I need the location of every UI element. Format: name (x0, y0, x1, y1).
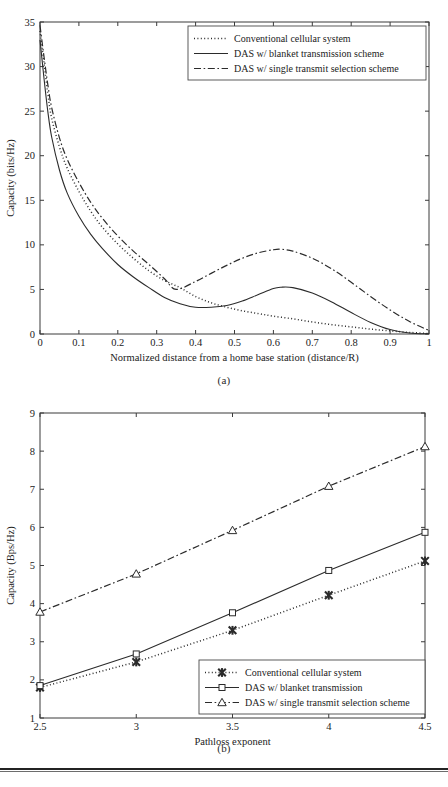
figure-a: 00.10.20.30.40.50.60.70.80.9105101520253… (0, 0, 448, 395)
figure-b-caption: (b) (0, 742, 448, 754)
y-tick-label: 20 (25, 150, 36, 161)
legend-marker-1 (219, 685, 225, 691)
series-2-marker (325, 482, 333, 489)
legend-label-1: DAS w/ blanket transmission scheme (234, 48, 385, 59)
figure-a-caption: (a) (0, 374, 448, 386)
series-0-marker (229, 626, 237, 635)
x-tick-label: 0.2 (111, 337, 124, 348)
series-0-marker (325, 591, 333, 600)
series-2-marker (36, 608, 44, 615)
y-tick-label: 15 (25, 195, 36, 206)
y-tick-label: 0 (30, 329, 35, 340)
y-axis-title: Capacity (bits/Hz) (5, 139, 17, 217)
x-tick-label: 0.1 (72, 337, 85, 348)
series-1-marker (230, 610, 236, 616)
x-tick-label: 0.7 (306, 337, 319, 348)
y-tick-label: 6 (30, 522, 35, 533)
series-1-marker (133, 651, 139, 657)
series-0-marker (132, 658, 140, 667)
y-tick-label: 5 (30, 284, 35, 295)
x-tick-label: 0.8 (345, 337, 358, 348)
series-1-marker (422, 529, 428, 535)
x-tick-label: 0.6 (267, 337, 280, 348)
series-0-marker (421, 557, 429, 566)
plot-a-container: 00.10.20.30.40.50.60.70.80.9105101520253… (0, 0, 448, 395)
legend-label-0: Conventional cellular system (245, 667, 362, 678)
series-2-marker (421, 442, 429, 449)
page-bottom-rule (0, 768, 448, 770)
y-tick-label: 3 (30, 636, 35, 647)
series-1-marker (37, 683, 43, 689)
y-tick-label: 35 (25, 17, 36, 28)
x-tick-label: 0.5 (228, 337, 241, 348)
y-tick-label: 30 (25, 61, 36, 72)
x-tick-label: 2.5 (33, 721, 46, 732)
y-tick-label: 1 (30, 713, 35, 724)
y-tick-label: 2 (30, 674, 35, 685)
x-axis-title: Normalized distance from a home base sta… (110, 352, 359, 364)
page-bottom-rule-thin (0, 771, 448, 772)
chart-a-svg: 00.10.20.30.40.50.60.70.80.9105101520253… (0, 0, 448, 395)
x-tick-label: 3.5 (226, 721, 239, 732)
series-line-1 (40, 40, 429, 334)
y-tick-label: 25 (25, 106, 36, 117)
x-tick-label: 0.3 (150, 337, 163, 348)
y-tick-label: 8 (30, 446, 35, 457)
x-tick-label: 1 (426, 337, 431, 348)
y-tick-label: 10 (25, 239, 36, 250)
y-tick-label: 7 (30, 484, 35, 495)
legend: Conventional cellular systemDAS w/ blank… (188, 26, 426, 80)
series-1-marker (326, 567, 332, 573)
series-2-marker (132, 570, 140, 577)
legend-label-1: DAS w/ blanket transmission (245, 682, 363, 693)
series-2-marker (228, 526, 236, 533)
y-tick-label: 5 (30, 560, 35, 571)
chart-b-svg: 2.533.544.5123456789Pathloss exponentCap… (0, 392, 448, 762)
x-tick-label: 0.4 (189, 337, 203, 348)
x-tick-label: 4.5 (418, 721, 431, 732)
figure-b: 2.533.544.5123456789Pathloss exponentCap… (0, 392, 448, 762)
legend-label-2: DAS w/ single transmit selection scheme (234, 63, 399, 74)
y-axis-title: Capacity (Bps/Hz) (5, 526, 17, 605)
legend-label-2: DAS w/ single transmit selection scheme (245, 697, 410, 708)
y-tick-label: 4 (30, 598, 36, 609)
x-tick-label: 0.9 (384, 337, 397, 348)
x-tick-label: 0 (37, 337, 42, 348)
legend-label-0: Conventional cellular system (234, 33, 351, 44)
legend: Conventional cellular systemDAS w/ blank… (199, 660, 425, 714)
plot-b-container: 2.533.544.5123456789Pathloss exponentCap… (0, 392, 448, 762)
x-tick-label: 3 (134, 721, 139, 732)
x-tick-label: 4 (326, 721, 332, 732)
y-tick-label: 9 (30, 408, 35, 419)
